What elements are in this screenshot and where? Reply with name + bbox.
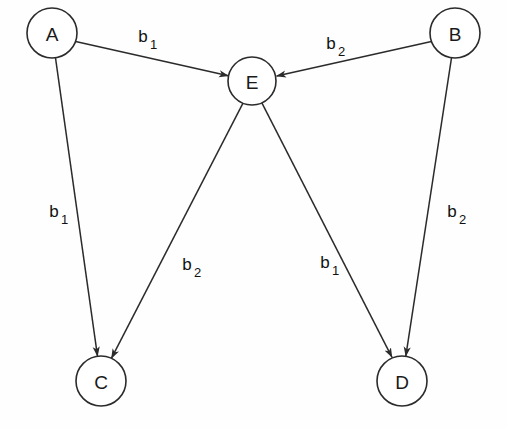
edge-label-a-c: b 1: [49, 202, 68, 227]
edge-a-to-c: [56, 58, 98, 356]
edge-label-e-c: b 2: [182, 255, 201, 280]
edge-label-a-e-sub: 1: [150, 37, 157, 52]
node-a-label: A: [46, 24, 59, 45]
edge-label-e-d-base: b: [320, 253, 329, 272]
node-d-label: D: [395, 372, 409, 393]
node-b-label: B: [449, 24, 462, 45]
edge-label-b-d: b 2: [447, 202, 466, 227]
edge-label-e-c-sub: 2: [194, 265, 201, 280]
edge-label-a-c-base: b: [49, 202, 58, 221]
node-e-label: E: [246, 72, 259, 93]
edge-label-b-d-base: b: [447, 202, 456, 221]
edge-b-to-e: [277, 41, 432, 76]
node-a[interactable]: A: [27, 8, 77, 58]
edge-label-b-e-base: b: [326, 34, 335, 53]
node-c[interactable]: C: [76, 356, 126, 406]
edge-label-e-d-sub: 1: [332, 263, 339, 278]
edge-label-e-c-base: b: [182, 255, 191, 274]
edge-label-e-d: b 1: [320, 253, 339, 278]
node-e[interactable]: E: [228, 57, 276, 105]
node-b[interactable]: B: [430, 8, 480, 58]
edge-e-to-c: [112, 103, 244, 358]
diagram-canvas: b 1 b 2 b 1 b 2 b 1 b 2: [0, 0, 507, 429]
node-d[interactable]: D: [377, 356, 427, 406]
edge-label-b-d-sub: 2: [459, 212, 466, 227]
edge-e-to-d: [262, 103, 392, 357]
edge-label-a-c-sub: 1: [61, 212, 68, 227]
edge-label-b-e: b 2: [326, 34, 345, 59]
edge-label-a-e-base: b: [138, 27, 147, 46]
node-c-label: C: [94, 372, 108, 393]
nodes-group: A B E C D: [27, 8, 480, 406]
edge-b-to-d: [406, 58, 452, 356]
edge-label-a-e: b 1: [138, 27, 157, 52]
graph-svg: b 1 b 2 b 1 b 2 b 1 b 2: [0, 0, 507, 429]
edge-label-b-e-sub: 2: [338, 44, 345, 59]
